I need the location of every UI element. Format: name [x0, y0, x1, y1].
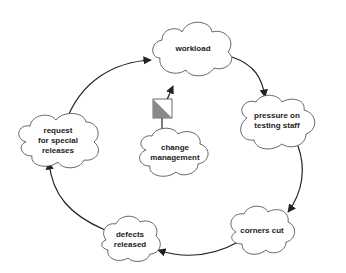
valve-icon	[153, 99, 172, 118]
edge-corners-to-defects	[158, 241, 240, 255]
edge-workload-to-pressure	[232, 57, 265, 97]
node-change-label: change management	[150, 143, 199, 163]
node-defects-label: defects released	[114, 230, 146, 250]
node-pressure-label: pressure on testing staff	[254, 111, 300, 131]
node-corners-label: corners cut	[240, 226, 284, 236]
edge-pressure-to-corners	[288, 146, 302, 212]
node-workload-label: workload	[175, 44, 210, 54]
node-request-label: request for special releases	[38, 126, 78, 156]
edge-defects-to-request	[49, 162, 105, 230]
